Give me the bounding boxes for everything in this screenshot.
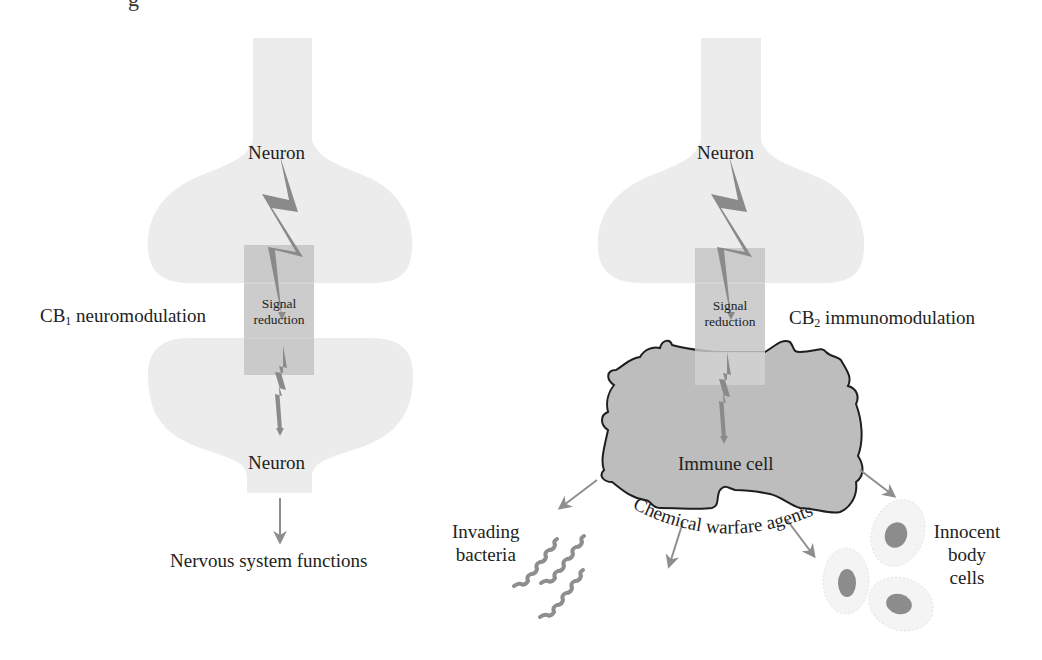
body-cells-line3: cells <box>928 566 1006 589</box>
cb1-prefix: CB <box>40 305 65 326</box>
signal-reduction-line2-right: reduction <box>695 314 765 330</box>
arrow-to-body-cells <box>860 470 894 496</box>
lower-neuron-label: Neuron <box>248 452 305 474</box>
bacteria-icon <box>514 536 584 617</box>
immune-cell-label: Immune cell <box>678 453 774 475</box>
body-cells-icon <box>823 492 941 640</box>
signal-reduction-label-right: Signal reduction <box>695 298 765 330</box>
cb1-suffix: neuromodulation <box>71 305 206 326</box>
signal-reduction-line1: Signal <box>244 296 314 312</box>
signal-reduction-label: Signal reduction <box>244 296 314 328</box>
upper-neuron-label-right: Neuron <box>697 142 754 164</box>
invading-bacteria-label: Invading bacteria <box>452 520 520 566</box>
upper-neuron-label: Neuron <box>248 142 305 164</box>
cb1-neuromodulation-label: CB1 neuromodulation <box>40 305 206 329</box>
cb2-immunomodulation-label: CB2 immunomodulation <box>789 307 975 331</box>
right-panel: Chemical warfare agents <box>514 38 941 640</box>
cb2-suffix: immunomodulation <box>820 307 975 328</box>
innocent-body-cells-label: Innocent body cells <box>928 520 1006 589</box>
bacteria-line1: Invading <box>452 520 520 543</box>
bacteria-line2: bacteria <box>452 543 520 566</box>
signal-reduction-line2: reduction <box>244 312 314 328</box>
nervous-system-functions-label: Nervous system functions <box>170 550 367 572</box>
signal-reduction-line1-right: Signal <box>695 298 765 314</box>
body-cells-line2: body <box>928 543 1006 566</box>
body-cells-line1: Innocent <box>928 520 1006 543</box>
arrow-to-bacteria <box>560 480 597 508</box>
cb2-prefix: CB <box>789 307 814 328</box>
